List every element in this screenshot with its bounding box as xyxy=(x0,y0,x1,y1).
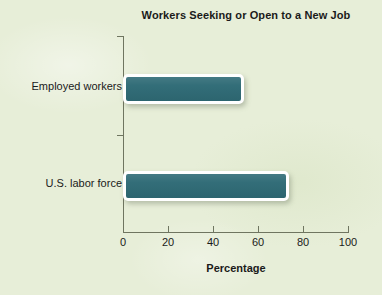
bar-us-labor-force xyxy=(123,171,289,201)
bar-chart-figure: Workers Seeking or Open to a New Job Emp… xyxy=(0,0,382,295)
x-axis-tick-20 xyxy=(168,226,169,233)
chart-title: Workers Seeking or Open to a New Job xyxy=(0,9,382,21)
y-axis-line xyxy=(123,36,124,232)
x-axis-tick-label-0: 0 xyxy=(103,236,143,248)
category-label-us-labor-force: U.S. labor force xyxy=(0,177,122,189)
y-axis-tick-top xyxy=(117,36,124,37)
x-axis-tick-0 xyxy=(123,226,124,233)
x-axis-tick-40 xyxy=(213,226,214,233)
x-axis-tick-80 xyxy=(303,226,304,233)
x-axis-tick-label-80: 80 xyxy=(283,236,323,248)
x-axis-tick-label-100: 100 xyxy=(328,236,368,248)
bar-employed-workers xyxy=(123,74,244,104)
plot-area: Employed workers U.S. labor force 020406… xyxy=(0,0,382,295)
x-axis-tick-60 xyxy=(258,226,259,233)
category-label-employed-workers: Employed workers xyxy=(0,80,122,92)
x-axis-tick-100 xyxy=(348,226,349,233)
x-axis-tick-label-60: 60 xyxy=(238,236,278,248)
x-axis-tick-label-40: 40 xyxy=(193,236,233,248)
x-axis-title: Percentage xyxy=(123,262,349,274)
x-axis-tick-label-20: 20 xyxy=(148,236,188,248)
x-axis-line xyxy=(123,232,349,233)
y-axis-tick-middle xyxy=(117,135,124,136)
